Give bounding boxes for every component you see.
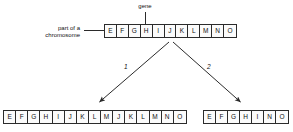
gene-box: F <box>117 25 129 37</box>
gene-box: O <box>276 111 288 123</box>
gene-box: O <box>174 111 186 123</box>
gene-box: M <box>101 111 113 123</box>
original-chromosome-row: EFGHIJKLMNO <box>104 24 237 38</box>
gene-box: E <box>4 111 16 123</box>
gene-box: F <box>16 111 28 123</box>
gene-box: O <box>224 25 236 37</box>
chromosome-label-line2: chromosome <box>28 32 80 40</box>
deleted-chromosome-row: EFGHINO <box>203 110 289 124</box>
arrow-2-line <box>173 42 241 102</box>
gene-box: F <box>216 111 228 123</box>
gene-box: E <box>204 111 216 123</box>
gene-box: G <box>129 25 141 37</box>
chromosome-leader-line <box>84 30 104 31</box>
gene-box: H <box>141 25 153 37</box>
gene-box: L <box>89 111 101 123</box>
gene-box: N <box>162 111 174 123</box>
gene-leader-line <box>145 12 146 24</box>
gene-box: J <box>113 111 125 123</box>
arrow-1-label: 1 <box>124 63 128 70</box>
gene-box: M <box>150 111 162 123</box>
gene-box: K <box>176 25 188 37</box>
duplicated-chromosome-row: EFGHIJKLMJKLMNO <box>3 110 187 124</box>
gene-box: N <box>264 111 276 123</box>
arrow-1-line <box>100 42 170 102</box>
gene-box: G <box>228 111 240 123</box>
gene-box: I <box>252 111 264 123</box>
gene-box: N <box>212 25 224 37</box>
gene-label: gene <box>128 3 162 11</box>
gene-box: I <box>53 111 65 123</box>
diagram-canvas: gene part of a chromosome EFGHIJKLMNO EF… <box>0 0 293 132</box>
gene-box: E <box>105 25 117 37</box>
gene-box: J <box>65 111 77 123</box>
gene-box: H <box>40 111 52 123</box>
gene-box: K <box>125 111 137 123</box>
gene-box: H <box>240 111 252 123</box>
gene-box: M <box>200 25 212 37</box>
gene-box: L <box>188 25 200 37</box>
gene-box: I <box>153 25 165 37</box>
gene-box: J <box>165 25 177 37</box>
gene-box: G <box>28 111 40 123</box>
gene-box: L <box>137 111 149 123</box>
arrow-2-label: 2 <box>207 63 211 70</box>
gene-box: K <box>77 111 89 123</box>
